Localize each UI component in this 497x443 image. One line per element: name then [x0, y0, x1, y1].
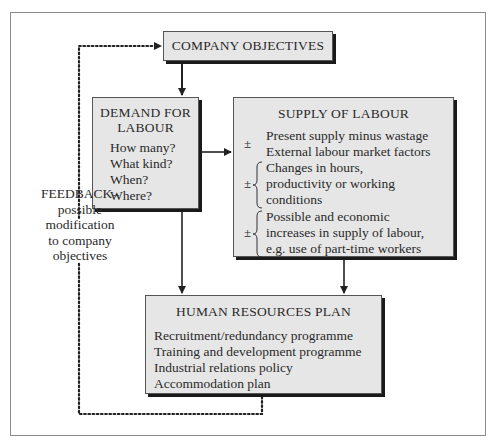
plus-minus-icon: ± — [244, 225, 251, 241]
supply-line: increases in supply of labour, — [266, 225, 424, 241]
demand-title-line1: DEMAND FOR — [93, 105, 198, 120]
demand-question: When? — [110, 172, 198, 188]
hr-plan-item: Training and development programme — [154, 344, 381, 360]
supply-group-3: Possible and economic increases in suppl… — [266, 209, 424, 257]
supply-group-2: Changes in hours, productivity or workin… — [266, 160, 395, 208]
supply-line: Present supply minus wastage — [266, 128, 431, 144]
company-objectives-title: COMPANY OBJECTIVES — [164, 38, 332, 54]
supply-line: e.g. use of part-time workers — [266, 241, 424, 257]
supply-line: conditions — [266, 192, 395, 208]
supply-line: External labour market factors — [266, 144, 431, 160]
plus-minus-icon: ± — [244, 176, 251, 192]
supply-box: SUPPLY OF LABOUR Present supply minus wa… — [233, 97, 454, 257]
hr-plan-title: HUMAN RESOURCES PLAN — [146, 304, 381, 320]
supply-title: SUPPLY OF LABOUR — [234, 106, 453, 122]
feedback-line: objectives — [38, 248, 122, 264]
brace-icon — [253, 161, 263, 209]
supply-line: Possible and economic — [266, 209, 424, 225]
feedback-line: FEEDBACK– — [38, 186, 122, 202]
feedback-arrowhead — [154, 42, 162, 50]
demand-title-line2: LABOUR — [93, 120, 198, 135]
supply-line: Changes in hours, — [266, 160, 395, 176]
hr-plan-items: Recruitment/redundancy programme Trainin… — [146, 328, 381, 392]
supply-group-1: Present supply minus wastage External la… — [266, 128, 431, 160]
demand-question: What kind? — [110, 156, 198, 172]
feedback-line: possible — [38, 202, 122, 218]
plus-minus-icon: ± — [244, 136, 251, 152]
hr-plan-item: Industrial relations policy — [154, 360, 381, 376]
demand-question: Where? — [110, 188, 198, 204]
feedback-label: FEEDBACK– possible modification to compa… — [38, 186, 122, 264]
company-objectives-box: COMPANY OBJECTIVES — [163, 31, 333, 61]
feedback-line: modification — [38, 217, 122, 233]
hr-plan-item: Recruitment/redundancy programme — [154, 328, 381, 344]
hr-plan-item: Accommodation plan — [154, 376, 381, 392]
brace-icon — [253, 210, 263, 258]
hr-plan-box: HUMAN RESOURCES PLAN Recruitment/redunda… — [145, 295, 382, 394]
supply-line: productivity or working — [266, 176, 395, 192]
demand-question: How many? — [110, 140, 198, 156]
feedback-line: to company — [38, 233, 122, 249]
